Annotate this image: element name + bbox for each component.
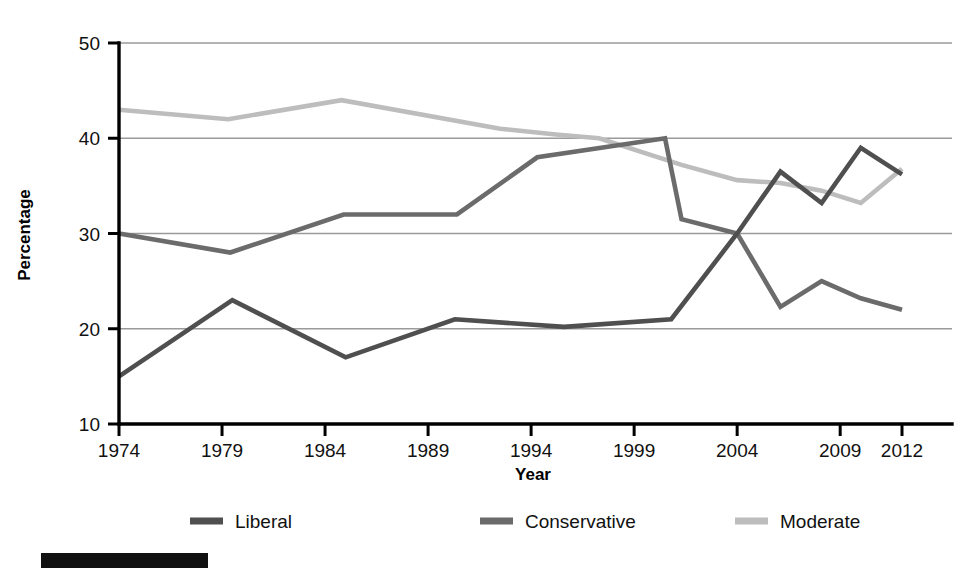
x-tick-label: 1984 [304, 440, 347, 461]
legend-label-moderate: Moderate [780, 511, 860, 532]
legend-label-liberal: Liberal [235, 511, 292, 532]
y-tick-label: 10 [79, 414, 100, 435]
x-tick-label: 1994 [510, 440, 553, 461]
x-tick-label: 1989 [407, 440, 449, 461]
footer-redaction-bar [41, 553, 208, 568]
x-tick-label: 2009 [819, 440, 861, 461]
x-tick-label: 1974 [98, 440, 141, 461]
y-tick-label: 40 [79, 128, 100, 149]
y-tick-label: 50 [79, 33, 100, 54]
line-chart-figure: 197419791984198919941999200420092012 102… [0, 0, 977, 573]
y-tick-label: 30 [79, 224, 100, 245]
x-tick-label: 1979 [201, 440, 243, 461]
x-tick-label: 2004 [716, 440, 759, 461]
x-tick-label: 1999 [613, 440, 655, 461]
legend-label-conservative: Conservative [525, 511, 636, 532]
x-tick-label: 2012 [881, 440, 923, 461]
x-axis-title: Year [515, 465, 551, 484]
y-axis-title: Percentage [15, 189, 34, 281]
y-tick-label: 20 [79, 319, 100, 340]
